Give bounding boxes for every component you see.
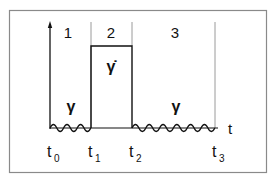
- region-label-2: 2: [107, 24, 115, 41]
- time-mark-t3: t 3: [212, 143, 225, 164]
- time-mark-t3-sub: 3: [219, 153, 225, 164]
- time-mark-t0-sub: 0: [54, 153, 60, 164]
- strain-symbol-region3: γ: [172, 98, 181, 115]
- y-axis-arrow-icon: [48, 21, 52, 28]
- time-mark-t1-base: t: [88, 143, 93, 160]
- time-mark-t1: t 1: [88, 143, 101, 164]
- time-mark-t2: t 2: [129, 143, 142, 164]
- time-mark-t1-sub: 1: [95, 153, 101, 164]
- oscillation-wave-region1: [50, 125, 91, 132]
- shear-rate-symbol-region2: γ̇: [107, 58, 118, 75]
- time-mark-t0-base: t: [47, 143, 52, 160]
- region-label-3: 3: [171, 24, 179, 41]
- region-label-1: 1: [64, 24, 72, 41]
- strain-symbol-region1: γ: [67, 98, 76, 115]
- time-mark-t2-base: t: [129, 143, 134, 160]
- time-mark-t2-sub: 2: [136, 153, 142, 164]
- time-mark-t3-base: t: [212, 143, 217, 160]
- rheology-protocol-diagram: 1 2 3 γ γ̇ γ t t 0 t 1 t 2 t 3: [0, 0, 273, 183]
- x-axis-label: t: [228, 120, 233, 137]
- time-mark-t0: t 0: [47, 143, 60, 164]
